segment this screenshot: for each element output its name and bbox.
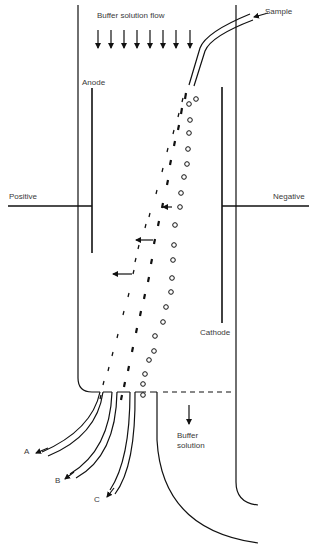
outlet-tube-a (36, 392, 103, 456)
outlet-a-label: A (24, 448, 29, 456)
chamber-right-wall (236, 5, 258, 505)
cathode-label: Cathode (200, 329, 230, 337)
outlet-tube-b (65, 392, 117, 479)
outlet-b-label: B (55, 477, 60, 485)
anode-label: Anode (82, 79, 105, 87)
buffer-solution-label-line1: Buffer (177, 432, 198, 440)
stream-a-particles (100, 98, 183, 399)
sample-tube-inner (194, 20, 253, 86)
buffer-solution-label-line2: solution (177, 442, 205, 450)
outlet-outer-curve (157, 392, 258, 543)
electrophoresis-diagram (0, 0, 318, 560)
negative-label: Negative (273, 193, 305, 201)
outlet-c-label: C (94, 496, 100, 504)
buffer-flow-arrows (98, 30, 190, 48)
buffer-flow-label: Buffer solution flow (97, 12, 164, 20)
positive-label: Positive (9, 193, 37, 201)
stream-c-particles (141, 97, 199, 398)
chamber-left-wall (78, 5, 100, 392)
sample-label: Sample (265, 8, 292, 16)
